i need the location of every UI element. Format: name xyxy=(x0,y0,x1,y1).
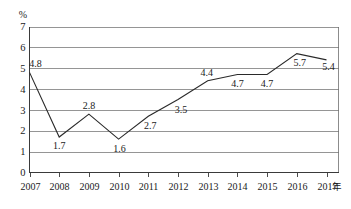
x-tick-label: 2010 xyxy=(110,181,130,192)
x-tick-label: 2015 xyxy=(258,181,278,192)
y-tick-label: 7 xyxy=(20,21,25,32)
y-tick-label: 0 xyxy=(20,167,25,178)
x-tick-label: 2007 xyxy=(21,181,41,192)
y-tick-label: 1 xyxy=(20,146,25,157)
y-axis-unit-label: % xyxy=(19,9,27,20)
x-tick-label: 2014 xyxy=(228,181,248,192)
x-tick-label: 2008 xyxy=(50,181,70,192)
data-point-label: 3.5 xyxy=(175,104,188,115)
data-point-label: 1.7 xyxy=(53,140,66,151)
data-point-label: 4.7 xyxy=(231,78,244,89)
x-tick-label: 2009 xyxy=(80,181,100,192)
line-chart: % 01234567 20072008200920102011201220132… xyxy=(0,0,351,209)
x-tick-label: 2013 xyxy=(199,181,219,192)
data-point-label: 4.8 xyxy=(29,58,42,69)
chart-canvas: % 01234567 20072008200920102011201220132… xyxy=(0,0,351,209)
x-tick-label-group: 2007200820092010201120122013201420152016… xyxy=(21,181,338,192)
data-point-label: 4.4 xyxy=(200,67,213,78)
data-point-label: 2.8 xyxy=(83,100,96,111)
data-point-label: 5.7 xyxy=(294,57,307,68)
y-tick-label: 5 xyxy=(20,63,25,74)
data-point-label: 4.7 xyxy=(261,78,274,89)
y-tick-label: 4 xyxy=(20,84,26,95)
y-tick-label: 3 xyxy=(20,105,25,116)
y-tick-label: 2 xyxy=(20,125,25,136)
y-tick-label: 6 xyxy=(20,42,25,53)
data-point-label: 1.6 xyxy=(113,143,126,154)
data-point-label: 2.7 xyxy=(144,120,157,131)
data-point-label: 5.4 xyxy=(322,61,335,72)
x-tick-label: 2011 xyxy=(139,181,159,192)
x-tick-label: 2016 xyxy=(288,181,308,192)
x-axis-suffix-label: 年 xyxy=(332,181,342,192)
x-tick-label: 2012 xyxy=(169,181,189,192)
